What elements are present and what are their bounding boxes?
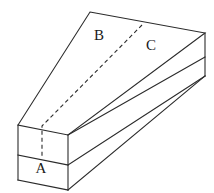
figure-container: B C A <box>0 0 214 193</box>
label-a: A <box>36 160 47 176</box>
wedge-prism-diagram: B C A <box>0 0 214 193</box>
label-b: B <box>94 27 104 43</box>
label-c: C <box>146 37 156 53</box>
